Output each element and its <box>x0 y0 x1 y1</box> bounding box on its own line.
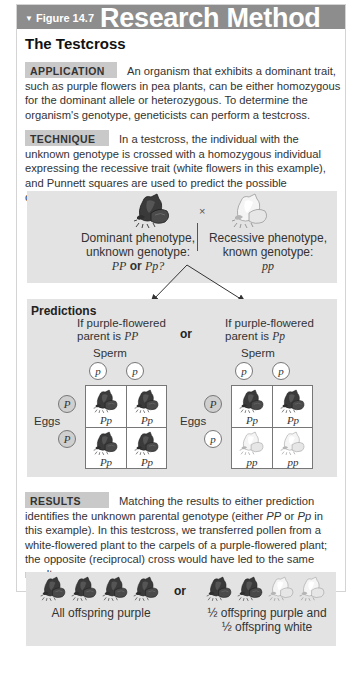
cell-genotype: Pp <box>127 456 167 468</box>
parent-geno: Pp <box>272 330 285 342</box>
cell-genotype: pp <box>232 456 272 468</box>
white-flower-icon <box>239 431 266 456</box>
prediction-left-line2: parent is PP <box>77 330 166 343</box>
results-section: RESULTSMatching the results to either pr… <box>25 492 341 581</box>
white-flower-icon <box>268 576 296 602</box>
white-flower-icon <box>231 193 271 229</box>
punnett-cell: pp <box>273 428 313 469</box>
outcomes-panel: All offspring purple or ½ offspring purp… <box>26 572 336 646</box>
prediction-right-line2: parent is Pp <box>225 330 314 343</box>
purple-flower-icon <box>102 576 130 602</box>
cell-genotype: Pp <box>86 414 126 426</box>
cell-genotype: Pp <box>127 414 167 426</box>
punnett-cell: Pp <box>127 386 167 427</box>
parent-is-text: parent is <box>77 330 124 342</box>
purple-flower-icon <box>239 389 266 414</box>
egg-allele-right-2: p <box>204 430 222 448</box>
eggs-label-left: Eggs <box>34 415 60 427</box>
cell-genotype: Pp <box>232 414 272 426</box>
figure-category: Research Method <box>100 5 321 29</box>
application-section: APPLICATIONAn organism that exhibits a d… <box>25 62 341 122</box>
purple-flower-icon <box>134 389 161 414</box>
figure-header: ▼Figure 14.7 Research Method <box>17 5 345 29</box>
figure-number: Figure 14.7 <box>36 12 94 24</box>
white-flower-icon <box>299 576 327 602</box>
punnett-square-left: Pp Pp Pp Pp <box>85 385 167 469</box>
cell-genotype: pp <box>273 456 313 468</box>
figure-title: The Testcross <box>17 29 345 55</box>
cross-symbol: × <box>199 205 205 217</box>
prediction-left-line1: If purple-flowered <box>77 317 166 330</box>
purple-flower-icon <box>71 576 99 602</box>
purple-flower-icon <box>133 576 161 602</box>
outcome-right-line2: ½ offspring white <box>204 620 330 634</box>
outcome-right-line1: ½ offspring purple and <box>204 606 330 620</box>
purple-flower-icon <box>206 576 234 602</box>
application-tag: APPLICATION <box>25 62 117 78</box>
prediction-right-line1: If purple-flowered <box>225 317 314 330</box>
grid-line <box>86 427 166 428</box>
grid-line <box>232 427 312 428</box>
parent-is-text: parent is <box>225 330 272 342</box>
results-geno-PP: PP <box>266 510 281 522</box>
eggs-label-right: Eggs <box>180 415 206 427</box>
cell-genotype: Pp <box>273 414 313 426</box>
figure-research-method: ▼Figure 14.7 Research Method The Testcro… <box>16 4 346 592</box>
punnett-cell: Pp <box>273 386 313 427</box>
egg-allele-left-2: P <box>58 430 76 448</box>
results-geno-Pp: Pp <box>297 510 311 522</box>
predictions-heading: Predictions <box>31 304 96 318</box>
prediction-right-label: If purple-flowered parent is Pp <box>225 317 314 343</box>
sperm-allele-right-2: p <box>272 362 290 380</box>
sperm-allele-right-1: p <box>235 362 253 380</box>
cell-genotype: Pp <box>86 456 126 468</box>
punnett-cell: Pp <box>232 386 272 427</box>
technique-tag: TECHNIQUE <box>25 130 109 146</box>
dominant-line1: Dominant phenotype, <box>77 231 199 245</box>
purple-flower-icon <box>133 193 173 229</box>
purple-flower-icon <box>93 389 120 414</box>
punnett-cell: pp <box>232 428 272 469</box>
egg-allele-right-1: P <box>204 395 222 413</box>
outcome-right-caption: ½ offspring purple and ½ offspring white <box>204 606 330 634</box>
triangle-down-icon: ▼ <box>25 14 33 23</box>
outcome-left-caption: All offspring purple <box>36 606 166 620</box>
egg-allele-left-1: P <box>58 395 76 413</box>
sperm-label-left: Sperm <box>93 347 127 359</box>
cross-divider <box>197 223 198 251</box>
sperm-allele-left-1: p <box>89 362 107 380</box>
sperm-allele-left-2: p <box>126 362 144 380</box>
purple-flower-icon <box>134 431 161 456</box>
prediction-left-label: If purple-flowered parent is PP <box>77 317 166 343</box>
purple-flower-icon <box>93 431 120 456</box>
predictions-panel: Predictions or If purple-flowered parent… <box>27 299 337 477</box>
punnett-square-right: Pp Pp pp pp <box>231 385 313 469</box>
white-flower-icon <box>280 431 307 456</box>
purple-flower-icon <box>40 576 68 602</box>
recessive-line1: Recessive phenotype, <box>205 231 331 245</box>
results-text: or <box>281 510 297 522</box>
punnett-cell: Pp <box>86 428 126 469</box>
purple-flower-icon <box>280 389 307 414</box>
outcomes-or: or <box>174 584 186 598</box>
figure-label: ▼Figure 14.7 <box>25 12 94 24</box>
punnett-cell: Pp <box>127 428 167 469</box>
results-tag: RESULTS <box>25 492 109 508</box>
sperm-label-right: Sperm <box>241 347 275 359</box>
predictions-or: or <box>180 327 192 341</box>
parent-geno: PP <box>124 330 138 342</box>
purple-flower-icon <box>237 576 265 602</box>
punnett-cell: Pp <box>86 386 126 427</box>
